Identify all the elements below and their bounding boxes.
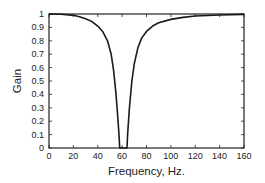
x-tick-label: 40	[93, 151, 103, 161]
x-tick-label: 80	[141, 151, 151, 161]
y-tick-label: 1	[39, 9, 44, 19]
y-tick-label: 0	[39, 143, 44, 153]
y-tick-label: 0.5	[31, 76, 44, 86]
y-tick-label: 0.6	[31, 63, 44, 73]
gain-curve	[49, 14, 244, 148]
y-tick-label: 0.1	[31, 130, 44, 140]
y-tick-label: 0.3	[31, 103, 44, 113]
y-axis-label: Gain	[11, 69, 23, 93]
x-axis-label: Frequency, Hz.	[108, 165, 185, 177]
y-tick-label: 0.4	[31, 89, 44, 99]
y-tick-label: 0.2	[31, 116, 44, 126]
x-tick-label: 100	[163, 151, 178, 161]
x-tick-label: 60	[117, 151, 127, 161]
x-tick-label: 160	[236, 151, 251, 161]
y-tick-label: 0.7	[31, 49, 44, 59]
plot-frame	[49, 14, 244, 148]
y-tick-label: 0.8	[31, 36, 44, 46]
x-axis-ticks: 020406080100120140160	[46, 14, 251, 161]
x-tick-label: 140	[212, 151, 227, 161]
y-axis-ticks: 00.10.20.30.40.50.60.70.80.91	[31, 9, 244, 153]
x-tick-label: 120	[188, 151, 203, 161]
x-tick-label: 0	[46, 151, 51, 161]
chart: 00.10.20.30.40.50.60.70.80.91 0204060801…	[0, 0, 265, 183]
x-tick-label: 20	[68, 151, 78, 161]
y-tick-label: 0.9	[31, 22, 44, 32]
